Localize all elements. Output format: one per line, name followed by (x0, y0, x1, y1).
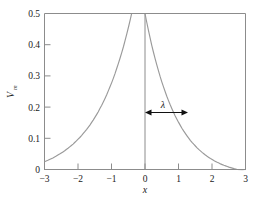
x-tick-label--2: −2 (73, 174, 83, 184)
y-tick-label-0.1: 0.1 (28, 134, 40, 144)
figure-container: λ 0.5 0.4 0.3 0.2 0.1 0 −3 −2 −1 0 1 2 3… (0, 0, 259, 197)
x-tick-label-2: 2 (210, 174, 215, 184)
x-tick-label-0: 0 (143, 174, 148, 184)
x-tick-label-1: 1 (176, 174, 181, 184)
x-axis-title: x (142, 184, 148, 195)
x-tick-label-3: 3 (243, 174, 248, 184)
line-chart: λ 0.5 0.4 0.3 0.2 0.1 0 −3 −2 −1 0 1 2 3… (0, 0, 259, 197)
y-axis-title: V (5, 90, 16, 98)
y-tick-label-0.4: 0.4 (28, 40, 40, 50)
x-tick-label--1: −1 (106, 174, 116, 184)
y-axis-title-group: V m (5, 85, 18, 98)
x-tick-label--3: −3 (39, 174, 49, 184)
y-tick-label-0.2: 0.2 (28, 103, 40, 113)
y-axis-title-subscript: m (11, 85, 18, 90)
y-tick-label-0.5: 0.5 (28, 9, 40, 19)
lambda-label: λ (160, 99, 166, 110)
y-tick-label-0.3: 0.3 (28, 71, 40, 81)
